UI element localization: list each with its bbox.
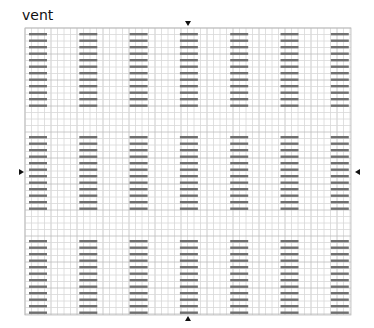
vent-bar — [180, 143, 198, 145]
vent-bar — [331, 59, 349, 61]
vent-bar — [230, 175, 248, 177]
vent-bar — [79, 279, 97, 281]
vent-bar — [281, 162, 299, 164]
vent-bar — [130, 169, 148, 171]
vent-bar — [281, 208, 299, 210]
vent-bar — [281, 188, 299, 190]
vent-bar — [79, 201, 97, 203]
vent-column — [130, 240, 148, 314]
vent-bar — [180, 59, 198, 61]
vent-bar — [79, 195, 97, 197]
vent-bar — [331, 299, 349, 301]
vent-bar — [130, 312, 148, 314]
vent-bar — [79, 33, 97, 35]
vent-bar — [281, 201, 299, 203]
vent-bar — [281, 279, 299, 281]
vent-bar — [130, 188, 148, 190]
vent-bar — [281, 156, 299, 158]
vent-bar — [79, 136, 97, 138]
vent-bar — [180, 105, 198, 107]
vent-bar — [281, 169, 299, 171]
vent-bar — [230, 279, 248, 281]
vent-bar — [79, 46, 97, 48]
vent-bar — [180, 312, 198, 314]
vent-column — [331, 240, 349, 314]
vent-bar — [331, 305, 349, 307]
vent-bar — [79, 286, 97, 288]
vent-bar — [130, 149, 148, 151]
vent-bar — [29, 66, 47, 68]
vent-bar — [180, 79, 198, 81]
vent-bar — [331, 53, 349, 55]
vent-bar — [180, 46, 198, 48]
vent-bar — [230, 149, 248, 151]
vent-bar — [79, 169, 97, 171]
vent-bar — [331, 92, 349, 94]
vent-bar — [130, 247, 148, 249]
vent-bar — [79, 260, 97, 262]
vent-bar — [180, 253, 198, 255]
vent-bar — [230, 143, 248, 145]
vent-column — [180, 240, 198, 314]
vent-bar — [230, 188, 248, 190]
vent-bar — [130, 260, 148, 262]
vent-bar — [281, 240, 299, 242]
vent-bar — [331, 260, 349, 262]
vent-bar — [130, 286, 148, 288]
vent-bar — [230, 201, 248, 203]
vent-bar — [331, 240, 349, 242]
vent-bar — [79, 79, 97, 81]
vent-bar — [180, 286, 198, 288]
vent-bar — [331, 149, 349, 151]
vent-bar — [180, 182, 198, 184]
marker-right-left-triangle-icon — [355, 169, 360, 175]
vent-bar — [180, 247, 198, 249]
vent-bar — [79, 72, 97, 74]
vent-column — [180, 136, 198, 210]
vent-column — [130, 33, 148, 107]
vent-bar — [79, 208, 97, 210]
vent-column — [180, 33, 198, 107]
vent-bar — [79, 266, 97, 268]
vent-bar — [180, 72, 198, 74]
vent-bar — [331, 266, 349, 268]
vent-bar — [29, 162, 47, 164]
vent-bar — [29, 247, 47, 249]
vent-bar — [281, 266, 299, 268]
vent-bar — [331, 175, 349, 177]
vent-bar — [281, 59, 299, 61]
vent-bar — [130, 79, 148, 81]
vent-bar — [230, 247, 248, 249]
vent-bar — [29, 169, 47, 171]
vent-bar — [79, 59, 97, 61]
vent-bar — [180, 299, 198, 301]
vent-column — [79, 33, 97, 107]
vent-bar — [29, 305, 47, 307]
vent-bar — [230, 156, 248, 158]
vent-bar — [79, 182, 97, 184]
vent-bar — [130, 195, 148, 197]
vent-bar — [130, 292, 148, 294]
vent-bar — [130, 46, 148, 48]
vent-bar — [29, 188, 47, 190]
vent-bar — [130, 162, 148, 164]
vent-bar — [29, 312, 47, 314]
vent-bar — [29, 299, 47, 301]
vent-bar — [180, 149, 198, 151]
vent-bar — [331, 98, 349, 100]
vent-bar — [29, 59, 47, 61]
vent-bar — [29, 292, 47, 294]
vent-bar — [29, 279, 47, 281]
vent-bar — [331, 169, 349, 171]
vent-bar — [130, 53, 148, 55]
vent-bar — [130, 273, 148, 275]
vent-bar — [281, 182, 299, 184]
vent-bar — [230, 105, 248, 107]
vent-bar — [331, 182, 349, 184]
vent-bar — [130, 279, 148, 281]
vent-bar — [29, 136, 47, 138]
vent-bar — [230, 195, 248, 197]
vent-bar — [281, 79, 299, 81]
vent-bar — [331, 143, 349, 145]
vent-bar — [29, 143, 47, 145]
